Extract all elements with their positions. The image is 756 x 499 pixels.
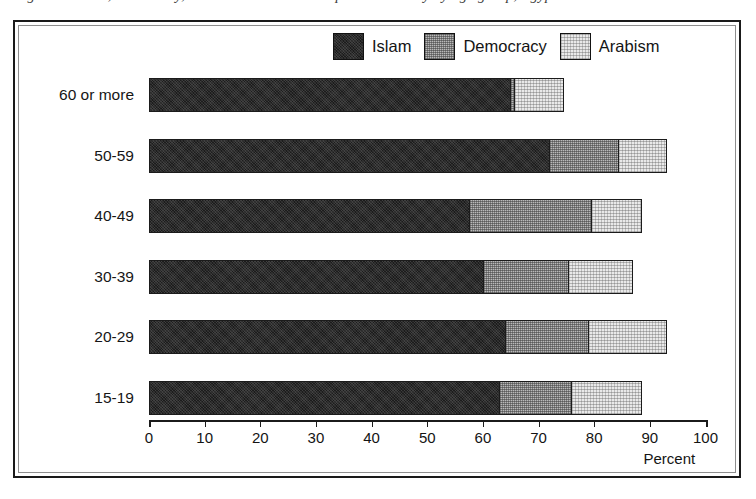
chart-frame: Islam Democracy Arabism 60 or more50-594…	[13, 20, 741, 478]
stacked-bar	[149, 139, 667, 173]
legend-entry-arabism: Arabism	[560, 33, 660, 60]
bar-segment-arabism	[571, 382, 640, 414]
bar-segment-democracy	[505, 321, 588, 353]
bar-segment-arabism	[618, 140, 665, 172]
bar-track	[149, 260, 706, 294]
bar-segment-arabism	[588, 321, 666, 353]
x-axis-tick	[316, 420, 317, 427]
bar-track	[149, 320, 706, 354]
bar-segment-democracy	[483, 261, 569, 293]
x-axis-tick-label: 40	[363, 429, 380, 446]
bar-segment-islam	[150, 261, 483, 293]
x-axis-tick	[205, 420, 206, 427]
legend-label-arabism: Arabism	[599, 37, 660, 56]
bar-segment-islam	[150, 321, 505, 353]
bar-row: 50-59	[15, 139, 739, 173]
legend-entry-democracy: Democracy	[424, 33, 546, 60]
bar-row: 15-19	[15, 381, 739, 415]
plot-area: 60 or more50-5940-4930-3920-2915-19	[15, 66, 739, 476]
x-axis-tick-label: 30	[308, 429, 325, 446]
y-axis-category-label: 60 or more	[15, 78, 134, 112]
y-axis-category-label: 20-29	[15, 320, 134, 354]
bar-row: 20-29	[15, 320, 739, 354]
x-axis-tick-label: 60	[475, 429, 492, 446]
bar-segment-islam	[150, 200, 469, 232]
bar-segment-democracy	[499, 382, 571, 414]
legend-swatch-icon-democracy	[424, 33, 455, 60]
stacked-bar	[149, 78, 564, 112]
figure-caption-strip: Figure 2. Islam, democracy, and Arabism …	[0, 0, 756, 16]
bar-segment-democracy	[469, 200, 591, 232]
y-axis-category-label: 50-59	[15, 139, 134, 173]
bar-track	[149, 381, 706, 415]
x-axis-title: Percent	[644, 450, 696, 467]
bar-track	[149, 199, 706, 233]
bar-track	[149, 139, 706, 173]
x-axis-tick	[372, 420, 373, 427]
x-axis-tick	[650, 420, 651, 427]
bar-row: 40-49	[15, 199, 739, 233]
x-axis-tick	[539, 420, 540, 427]
bar-row: 60 or more	[15, 78, 739, 112]
bar-track	[149, 78, 706, 112]
y-axis-category-label: 15-19	[15, 381, 134, 415]
x-axis-tick-label: 0	[145, 429, 153, 446]
y-axis-category-label: 40-49	[15, 199, 134, 233]
bar-row: 30-39	[15, 260, 739, 294]
bar-segment-arabism	[514, 79, 563, 111]
legend-label-democracy: Democracy	[463, 37, 546, 56]
legend-label-islam: Islam	[372, 37, 411, 56]
x-axis-tick	[260, 420, 261, 427]
x-axis-tick-label: 10	[196, 429, 213, 446]
x-axis-tick-label: 20	[252, 429, 269, 446]
stacked-bar	[149, 381, 642, 415]
legend-swatch-icon-arabism	[560, 33, 591, 60]
stacked-bar	[149, 199, 642, 233]
bar-segment-islam	[150, 140, 549, 172]
stacked-bar	[149, 260, 633, 294]
x-axis-tick	[483, 420, 484, 427]
figure-caption: Figure 2. Islam, democracy, and Arabism …	[14, 0, 557, 4]
x-axis-tick	[706, 420, 708, 427]
bar-segment-democracy	[549, 140, 618, 172]
bar-segment-arabism	[591, 200, 641, 232]
x-axis-tick	[427, 420, 428, 427]
x-axis-tick-label: 90	[642, 429, 659, 446]
bar-segment-islam	[150, 382, 499, 414]
x-axis-tick	[594, 420, 595, 427]
x-axis-tick-label: 80	[586, 429, 603, 446]
x-axis-tick-label: 100	[693, 429, 718, 446]
bar-segment-arabism	[568, 261, 632, 293]
x-axis-tick	[149, 420, 151, 427]
x-axis-tick-label: 50	[419, 429, 436, 446]
legend-swatch-icon-islam	[333, 33, 364, 60]
x-axis-tick-label: 70	[530, 429, 547, 446]
y-axis-category-label: 30-39	[15, 260, 134, 294]
stacked-bar	[149, 320, 667, 354]
legend-entry-islam: Islam	[333, 33, 411, 60]
bar-segment-islam	[150, 79, 510, 111]
chart-legend: Islam Democracy Arabism	[333, 31, 659, 61]
